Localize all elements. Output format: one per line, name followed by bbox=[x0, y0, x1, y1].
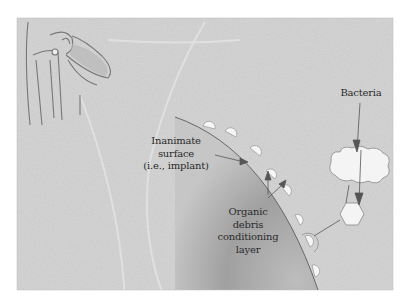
label-line: debris bbox=[212, 219, 284, 232]
label-line: Bacteria bbox=[336, 87, 386, 100]
label-line: surface bbox=[136, 148, 216, 161]
biofilm-diagram: Inanimate surface (i.e., implant) Organi… bbox=[0, 0, 413, 305]
label-line: layer bbox=[212, 244, 284, 257]
label-line: conditioning bbox=[212, 231, 284, 244]
label-line: (i.e., implant) bbox=[136, 160, 216, 173]
label-line: Organic bbox=[212, 206, 284, 219]
label-line: Inanimate bbox=[136, 135, 216, 148]
label-bacteria: Bacteria bbox=[336, 87, 386, 100]
bacteria-cloud-icon bbox=[330, 146, 389, 183]
label-inanimate-surface: Inanimate surface (i.e., implant) bbox=[136, 135, 216, 173]
label-organic-debris-layer: Organic debris conditioning layer bbox=[212, 206, 284, 256]
